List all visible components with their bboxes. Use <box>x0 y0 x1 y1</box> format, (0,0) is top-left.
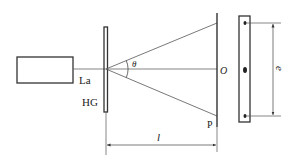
laser-label: La <box>79 74 91 86</box>
diffraction-diagram: La HG θ O P l e <box>0 0 293 166</box>
ray-upper <box>106 23 217 69</box>
center-point-label: O <box>220 65 227 76</box>
laser-box <box>17 57 73 83</box>
grating-label: HG <box>82 96 98 108</box>
ray-lower <box>106 69 217 116</box>
spot-center <box>243 67 247 73</box>
separation-label: e <box>274 66 286 71</box>
distance-label: l <box>157 131 160 143</box>
screen-point-label: P <box>207 119 213 130</box>
angle-label: θ <box>132 59 137 69</box>
